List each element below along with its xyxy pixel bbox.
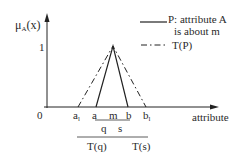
y-tick-1: 1 [39, 42, 45, 53]
x-tick-a-l: al [73, 110, 80, 123]
p-membership-curve [96, 46, 128, 107]
legend-solid-label-line2: is about m [174, 26, 220, 37]
x-tick-sub: l [149, 115, 151, 123]
ts-label: T(s) [132, 141, 150, 152]
tq-label: T(q) [87, 141, 107, 152]
x-axis-label: attribute [192, 112, 229, 123]
legend-solid-label-line1: P: attribute A [168, 14, 227, 25]
y-axis-label-arg: (x) [27, 18, 41, 32]
x-tick-m: m [109, 110, 118, 121]
x-tick-b: b [126, 110, 132, 121]
x-tick-base: a [92, 109, 97, 121]
tp-membership-curve [78, 46, 146, 107]
x-tick-base: b [126, 109, 132, 121]
y-axis-arrow-icon [45, 13, 50, 22]
legend-dashdot-label: T(P) [172, 40, 192, 51]
x-axis-arrow-icon [210, 105, 219, 110]
x-tick-sub: l [78, 115, 80, 123]
x-tick-a: a [92, 110, 97, 121]
y-axis-label: μA(x) [15, 19, 41, 33]
fuzzy-membership-diagram: μA(x) 1 0 al a m b bl attribute q s T(q)… [0, 0, 237, 160]
q-label: q [101, 123, 107, 134]
x-tick-b-l: bl [143, 110, 150, 123]
origin-label: 0 [37, 110, 43, 121]
x-tick-base: m [109, 109, 118, 121]
s-label: s [118, 123, 122, 134]
